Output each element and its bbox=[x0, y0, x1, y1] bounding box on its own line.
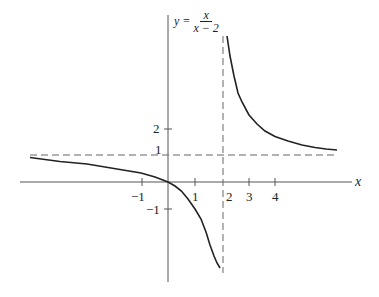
x-tick-label-1: 1 bbox=[192, 190, 199, 203]
y-tick-label-2: 2 bbox=[153, 122, 160, 135]
y-tick-label-neg1: −1 bbox=[146, 203, 160, 216]
x-tick-label-4: 4 bbox=[272, 190, 279, 203]
x-tick-label-3: 3 bbox=[246, 190, 253, 203]
x-tick-label-neg1: −1 bbox=[131, 190, 145, 203]
eq-denominator: x − 2 bbox=[193, 22, 218, 34]
curve-left-branch bbox=[30, 158, 220, 269]
equation-label: y = x x − 2 bbox=[174, 9, 219, 34]
y-tick-label-1: 1 bbox=[155, 143, 162, 156]
eq-fraction: x x − 2 bbox=[193, 9, 218, 34]
x-tick-label-2: 2 bbox=[226, 190, 233, 203]
curve-right-branch bbox=[227, 36, 337, 150]
x-axis-label: x bbox=[355, 175, 361, 189]
plot-canvas bbox=[0, 0, 379, 297]
eq-lhs: y = bbox=[174, 14, 190, 29]
